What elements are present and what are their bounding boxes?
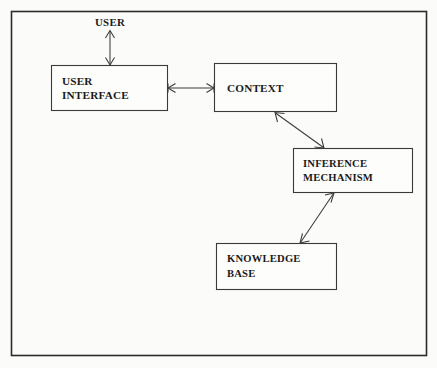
connector-user-to-user-interface: [106, 31, 115, 66]
node-inference-mechanism-box[interactable]: [294, 149, 413, 193]
external-actor-user-label: USER: [95, 16, 125, 28]
connector-knowledge-base-to-inference-mechanism: [300, 193, 334, 243]
node-inference-mechanism[interactable]: INFERENCE MECHANISM: [294, 149, 413, 193]
node-context-label-line1: CONTEXT: [227, 82, 284, 94]
node-user-interface-box[interactable]: [52, 66, 168, 111]
diagram-canvas: USER INTERFACE CONTEXT INFERENCE MECHANI…: [0, 0, 437, 368]
connector-context-to-inference-mechanism: [275, 113, 324, 149]
node-knowledge-base[interactable]: KNOWLEDGE BASE: [217, 244, 337, 290]
node-knowledge-base-label-line1: KNOWLEDGE: [227, 253, 301, 264]
node-inference-mechanism-label-line1: INFERENCE: [303, 158, 367, 169]
node-knowledge-base-box[interactable]: [217, 244, 337, 290]
node-user-interface-label-line2: INTERFACE: [62, 89, 129, 101]
node-user-interface[interactable]: USER INTERFACE: [52, 66, 168, 111]
node-inference-mechanism-label-line2: MECHANISM: [303, 172, 373, 183]
node-user-interface-label-line1: USER: [62, 75, 93, 87]
node-knowledge-base-label-line2: BASE: [227, 268, 255, 279]
node-context[interactable]: CONTEXT: [215, 64, 337, 112]
architecture-diagram: USER INTERFACE CONTEXT INFERENCE MECHANI…: [0, 0, 437, 368]
connector-user-interface-to-context: [168, 84, 214, 93]
